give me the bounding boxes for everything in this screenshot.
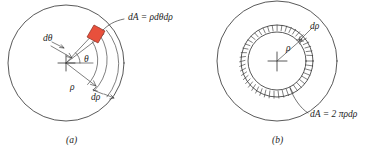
panel-a-drho-label: dρ	[91, 93, 100, 103]
panel-a-rho-label: ρ	[70, 83, 75, 93]
panel-a-dtheta-arrow	[51, 42, 72, 58]
panel-b-rho-label: ρ	[286, 44, 291, 54]
figure-svg	[0, 0, 378, 155]
panel-b-area-element-label: dA = 2 πρdρ	[310, 110, 357, 120]
figure-container: dA = ρdθdρ dθ θ ρ dρ (a) dρ ρ dA = 2 πρd…	[0, 0, 378, 155]
panel-b-area-label-leader	[290, 88, 308, 113]
panel-a-dtheta-label: dθ	[43, 34, 52, 44]
panel-a-graphics	[8, 5, 124, 121]
panel-a-area-element-label: dA = ρdθdρ	[128, 13, 173, 23]
panel-b-drho-label: dρ	[310, 22, 319, 32]
panel-a-far-arc	[107, 30, 119, 97]
panel-a-outer-arc	[94, 35, 107, 91]
panel-b-caption: (b)	[272, 136, 283, 146]
panel-a-area-element-patch	[87, 25, 105, 43]
panel-a-theta-label: θ	[84, 55, 89, 65]
panel-a-caption: (a)	[66, 136, 77, 146]
panel-b-graphics	[217, 1, 337, 121]
